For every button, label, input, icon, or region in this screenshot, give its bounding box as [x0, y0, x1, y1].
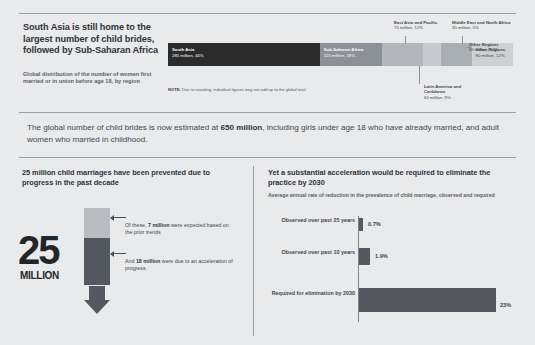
callout-text-before: And [125, 258, 136, 264]
callout-value: 35 million, 5% [452, 25, 512, 30]
callout-east-asia-pacific: East Asia and Pacific 75 million, 12% [394, 20, 450, 31]
divider-top [19, 13, 516, 14]
arrow-left-icon [113, 253, 126, 254]
bar-label: Required for elimination by 2030 [271, 290, 355, 297]
stack-segment-sub-saharan-africa: Sub-Saharan Africa 115 million, 18% [320, 43, 382, 66]
stack-segment-label: South Asia [172, 47, 194, 52]
callout-value: 60 million, 9% [424, 95, 482, 100]
callout-expected-trend: Of these, 7 million were expected based … [125, 222, 235, 236]
callout-bold: 7 million [148, 222, 170, 228]
divider-middle-upper [19, 112, 516, 113]
banner-text-before: The global number of child brides is now… [27, 123, 220, 132]
bar-value: 1.9% [375, 253, 388, 260]
leader-line-east-asia [405, 36, 406, 44]
arrow-down-icon [84, 286, 110, 314]
stack-segment-value: 80 million, 12% [476, 53, 505, 58]
stack-segment-value: 285 million, 44% [172, 53, 204, 58]
section1-subtitle: Global distribution of the number of wom… [23, 71, 163, 85]
stack-segment-east-asia-pacific [382, 43, 423, 66]
horizontal-bar-chart: Observed over past 25 years 0.7% Observe… [268, 216, 518, 326]
big-number-unit: MILLION [20, 270, 59, 281]
stack-segment-label: Sub-Saharan Africa [324, 47, 364, 52]
bar-observed-10-years [359, 248, 370, 265]
leader-line-latin-america [419, 66, 420, 84]
panel-right-heading: Yet a substantial acceleration would be … [268, 168, 508, 187]
global-statement-banner: The global number of child brides is now… [27, 122, 508, 145]
note-label: NOTE: [168, 87, 181, 92]
bar-required-2030 [359, 288, 496, 312]
leader-line-mena [462, 36, 463, 44]
bar-value: 23% [500, 302, 511, 309]
bar-value: 0.7% [368, 221, 381, 228]
panel-right-subtitle: Average annual rate of reduction in the … [268, 192, 506, 199]
callout-acceleration: And 18 million were due to an accelerati… [125, 258, 235, 272]
callout-bold: 18 million [136, 258, 160, 264]
panel-left-heading: 25 million child marriages have been pre… [22, 168, 240, 187]
stack-segment-south-asia: South Asia 285 million, 44% [168, 43, 320, 66]
vertical-stacked-bar [84, 208, 110, 285]
note-text: Due to rounding, individual figures may … [181, 87, 307, 92]
stack-segment-value: 115 million, 18% [324, 53, 355, 58]
bar-label: Observed over past 10 years [271, 249, 355, 256]
section1-headline: South Asia is still home to the largest … [23, 22, 163, 57]
banner-highlight: 650 million [220, 123, 262, 132]
callout-value: 80 million, 12% [469, 47, 525, 52]
bar-label: Observed over past 25 years [271, 217, 355, 224]
callout-text-before: Of these, [125, 222, 148, 228]
callout-middle-east-north-africa: Middle East and North Africa 35 million,… [452, 20, 512, 31]
divider-middle-lower [19, 157, 516, 158]
stack-segment-middle-east-north-africa [423, 43, 440, 66]
big-number-value: 25 [18, 232, 59, 268]
stacked-bar-chart: South Asia 285 million, 44% Sub-Saharan … [168, 43, 513, 66]
vbar-segment-expected [84, 208, 110, 238]
bar-observed-25-years [359, 218, 363, 231]
arrow-left-icon [113, 217, 126, 218]
callout-other-regions: Other Regions 80 million, 12% [469, 42, 525, 53]
divider-vertical [253, 166, 254, 336]
infographic-canvas: South Asia is still home to the largest … [0, 0, 535, 345]
chart-note: NOTE: Due to rounding, individual figure… [168, 87, 498, 93]
callout-value: 75 million, 12% [394, 25, 450, 30]
vbar-segment-acceleration [84, 238, 110, 285]
